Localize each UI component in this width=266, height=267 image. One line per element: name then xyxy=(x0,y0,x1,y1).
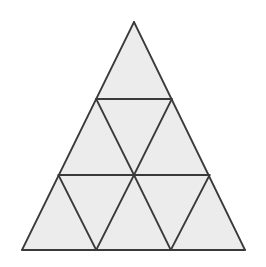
triangle-figure: Equilateral triangle subdivided into sma… xyxy=(0,0,266,267)
